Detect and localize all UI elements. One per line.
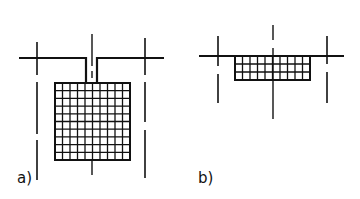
mesh-grid-b [235,56,310,80]
panel-b [199,25,344,119]
panel-a [19,34,164,180]
panel-label-a: a) [17,169,32,187]
mesh-grid-a [55,83,130,160]
figure-canvas: a) b) [0,0,360,199]
panel-label-b: b) [198,169,213,187]
beam-right [97,58,164,83]
diagram-drawing [0,0,360,199]
beam-left [19,58,86,83]
